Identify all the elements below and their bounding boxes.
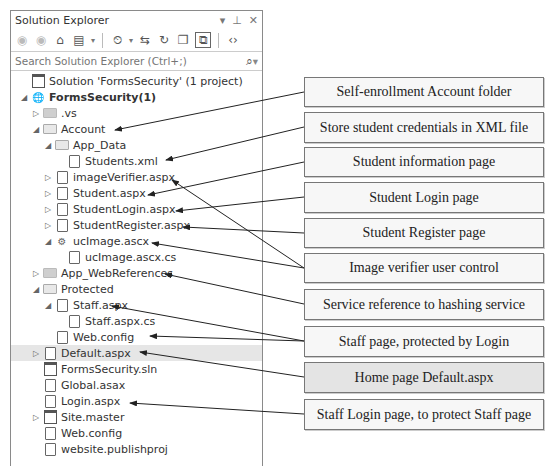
tree-item[interactable]: ▷StudentRegister.aspx <box>11 217 262 233</box>
tree-item[interactable]: Solution 'FormsSecurity' (1 project) <box>11 73 262 89</box>
xml-file-icon <box>67 155 81 167</box>
collapse-arrow-icon[interactable]: ◢ <box>43 301 53 310</box>
tree-item[interactable]: FormsSecurity.sln <box>11 361 262 377</box>
collapse-arrow-icon[interactable]: ◢ <box>31 125 41 134</box>
tree-item[interactable]: ▷StudentLogin.aspx <box>11 201 262 217</box>
expand-arrow-icon[interactable]: ▷ <box>31 109 41 118</box>
tree-item-label: Staff.aspx.cs <box>85 315 155 328</box>
switch-views-dropdown-icon[interactable]: ▾ <box>91 36 95 45</box>
tree-item[interactable]: Web.config <box>11 329 262 345</box>
forward-icon[interactable]: ◉ <box>34 32 48 48</box>
collapse-arrow-icon[interactable]: ◢ <box>31 285 41 294</box>
home-icon[interactable]: ⌂ <box>53 32 67 48</box>
callout-box: Staff Login page, to protect Staff page <box>304 399 544 430</box>
callout-box: Student Register page <box>304 218 544 248</box>
tree-item[interactable]: ◢Account <box>11 121 262 137</box>
publish-profile-icon <box>43 443 57 455</box>
tree-item[interactable]: ◢App_Data <box>11 137 262 153</box>
folder-icon <box>43 123 57 135</box>
solution-explorer-panel: Solution Explorer ▾ ⊥ ✕ ◉ ◉ ⌂ ▤▾ ⏲▾ ⇆ ↻ … <box>10 10 263 466</box>
expand-arrow-icon[interactable]: ▷ <box>31 269 41 278</box>
tree-item-label: Protected <box>61 283 114 296</box>
callout-box: Self-enrollment Account folder <box>304 77 544 107</box>
folder-icon <box>43 107 57 119</box>
tree-item[interactable]: Staff.aspx.cs <box>11 313 262 329</box>
callout-box: Student Login page <box>304 182 544 213</box>
tree-item[interactable]: Global.asax <box>11 377 262 393</box>
search-icon[interactable]: ⌕ <box>246 54 253 68</box>
collapse-all-icon[interactable]: ❐ <box>176 32 190 48</box>
tree-item[interactable]: ◢Protected <box>11 281 262 297</box>
tree-item-label: Web.config <box>61 427 122 440</box>
tree-item[interactable]: ▷App_WebReferences <box>11 265 262 281</box>
tree-item-label: Web.config <box>73 331 134 344</box>
dropdown-arrow-icon[interactable]: ▾ <box>220 14 226 27</box>
view-code-icon[interactable]: ‹› <box>226 32 240 48</box>
tree-item[interactable]: ▷Site.master <box>11 409 262 425</box>
expand-arrow-icon[interactable]: ▷ <box>43 189 53 198</box>
toolbar-separator <box>218 33 219 48</box>
tree-item-label: Students.xml <box>85 155 158 168</box>
expand-arrow-icon[interactable]: ▷ <box>43 221 53 230</box>
tree-item-label: Student.aspx <box>73 187 146 200</box>
filter-dropdown-icon[interactable]: ▾ <box>129 36 133 45</box>
tree-item[interactable]: Login.aspx <box>11 393 262 409</box>
solution-icon <box>31 75 45 87</box>
search-input[interactable] <box>15 55 246 67</box>
tree-item[interactable]: ▷Default.aspx <box>11 345 262 361</box>
folder-icon <box>43 267 57 279</box>
search-box[interactable]: ⌕ ▾ <box>11 51 262 71</box>
tree-item[interactable]: ▷imageVerifier.aspx <box>11 169 262 185</box>
collapse-arrow-icon[interactable]: ◢ <box>19 93 29 102</box>
refresh-icon[interactable]: ↻ <box>157 32 171 48</box>
tree-item[interactable]: ucImage.ascx.cs <box>11 249 262 265</box>
tree-item[interactable]: Students.xml <box>11 153 262 169</box>
tree-item-label: Staff.aspx <box>73 299 128 312</box>
tree-item[interactable]: ▷.vs <box>11 105 262 121</box>
panel-toolbar: ◉ ◉ ⌂ ▤▾ ⏲▾ ⇆ ↻ ❐ ⧉ ‹› <box>11 29 262 51</box>
expand-arrow-icon[interactable]: ▷ <box>43 205 53 214</box>
callout-box: Store student credentials in XML file <box>304 112 544 143</box>
aspx-file-icon <box>55 299 69 311</box>
pin-icon[interactable]: ⊥ <box>232 14 242 27</box>
tree-item[interactable]: website.publishproj <box>11 441 262 457</box>
sync-icon[interactable]: ⇆ <box>138 32 152 48</box>
asax-file-icon <box>43 379 57 391</box>
tree-item-label: FormsSecurity(1) <box>49 91 156 104</box>
pending-changes-filter-icon[interactable]: ⏲ <box>110 32 124 48</box>
expand-arrow-icon[interactable]: ▷ <box>43 173 53 182</box>
tree-item-label: App_Data <box>73 139 126 152</box>
callout-box: Student information page <box>304 147 544 177</box>
tree-item[interactable]: Web.config <box>11 425 262 441</box>
tree-item-label: App_WebReferences <box>61 267 173 280</box>
search-options-dropdown-icon[interactable]: ▾ <box>253 55 258 67</box>
tree-item-label: Solution 'FormsSecurity' (1 project) <box>49 75 243 88</box>
tree-item[interactable]: ◢🌐FormsSecurity(1) <box>11 89 262 105</box>
expand-arrow-icon[interactable]: ▷ <box>31 349 41 358</box>
callout-box: Staff page, protected by Login <box>304 326 544 357</box>
tree-item[interactable]: ◢⚙ucImage.ascx <box>11 233 262 249</box>
user-control-icon: ⚙ <box>55 235 69 247</box>
config-file-icon <box>43 427 57 439</box>
tree-item-label: Default.aspx <box>61 347 131 360</box>
tree-item[interactable]: ▷Student.aspx <box>11 185 262 201</box>
close-icon[interactable]: ✕ <box>249 14 258 27</box>
tree-item-label: ucImage.ascx.cs <box>85 251 176 264</box>
tree-item[interactable]: ◢Staff.aspx <box>11 297 262 313</box>
tree-item-label: StudentLogin.aspx <box>73 203 175 216</box>
tree-item-label: .vs <box>61 107 77 120</box>
collapse-arrow-icon[interactable]: ◢ <box>43 141 53 150</box>
toolbar-separator <box>102 33 103 48</box>
panel-title: Solution Explorer <box>15 14 220 27</box>
expand-arrow-icon[interactable]: ▷ <box>31 413 41 422</box>
switch-views-icon[interactable]: ▤ <box>72 32 86 48</box>
tree-item-label: Login.aspx <box>61 395 120 408</box>
aspx-file-icon <box>43 347 57 359</box>
solution-icon <box>43 363 57 375</box>
show-all-files-icon[interactable]: ⧉ <box>195 32 211 48</box>
callout-box: Home page Default.aspx <box>304 362 544 393</box>
tree-item-label: website.publishproj <box>61 443 168 456</box>
folder-icon <box>43 283 57 295</box>
back-icon[interactable]: ◉ <box>15 32 29 48</box>
collapse-arrow-icon[interactable]: ◢ <box>43 237 53 246</box>
